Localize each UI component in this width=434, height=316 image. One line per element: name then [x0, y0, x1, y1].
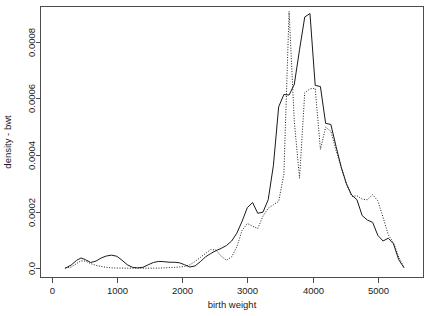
chart-canvas: 010002000300040005000 0.00.00020.00040.0… — [0, 0, 434, 316]
x-axis-title: birth weight — [208, 299, 257, 310]
y-tick-label: 0.0 — [26, 262, 37, 275]
x-tick-label: 0 — [50, 285, 55, 296]
y-tick-label: 0.0006 — [26, 84, 37, 113]
y-tick-label: 0.0002 — [26, 198, 37, 227]
x-tick-label: 3000 — [237, 285, 258, 296]
y-tick-label: 0.0004 — [26, 141, 37, 170]
y-tick-label: 0.0008 — [26, 28, 37, 57]
x-tick-label: 5000 — [368, 285, 389, 296]
y-axis-title: density - bwt — [2, 115, 13, 169]
density-plot-figure: 010002000300040005000 0.00.00020.00040.0… — [0, 0, 434, 316]
x-tick-label: 1000 — [107, 285, 128, 296]
x-tick-label: 4000 — [303, 285, 324, 296]
x-tick-label: 2000 — [172, 285, 193, 296]
